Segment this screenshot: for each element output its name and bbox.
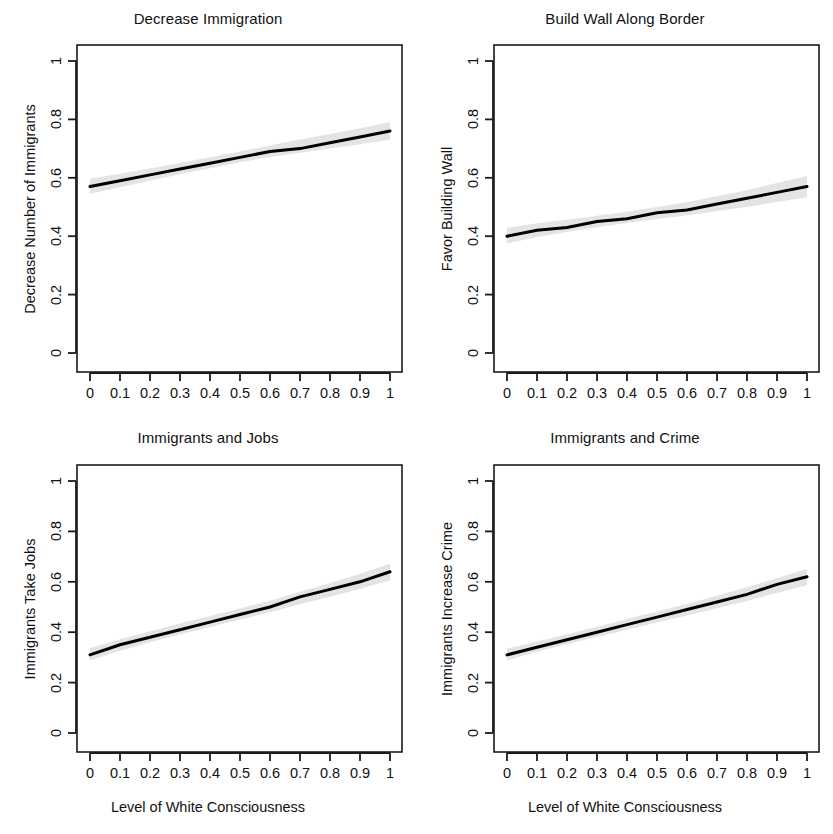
fitted-line	[90, 131, 390, 186]
x-tick-label: 0.5	[647, 385, 667, 401]
y-tick-label: 1	[48, 57, 64, 65]
plot-box	[494, 465, 819, 752]
fitted-line	[507, 187, 807, 237]
y-tick-label: 1	[48, 477, 64, 485]
x-tick-label: 1	[386, 385, 394, 401]
x-tick-label: 0.3	[587, 385, 607, 401]
y-tick-label: 0.6	[48, 168, 64, 188]
x-tick-label: 0.6	[677, 385, 697, 401]
confidence-band	[507, 569, 807, 660]
y-tick-label: 1	[465, 477, 481, 485]
confidence-band	[507, 176, 807, 243]
panel-3: Immigrants and JobsImmigrants Take JobsL…	[0, 417, 416, 834]
x-tick-label: 0.6	[677, 765, 697, 781]
y-tick-label: 0	[465, 729, 481, 737]
x-tick-label: 0.8	[737, 765, 757, 781]
x-tick-label: 0.8	[320, 765, 340, 781]
x-tick-label: 0.9	[767, 765, 787, 781]
x-tick-label: 1	[803, 385, 811, 401]
x-tick-label: 0.6	[260, 385, 280, 401]
panel-4: Immigrants and CrimeImmigrants Increase …	[417, 417, 833, 834]
x-tick-label: 0.9	[350, 765, 370, 781]
x-tick-label: 0.5	[647, 765, 667, 781]
plot-box	[77, 45, 402, 372]
x-tick-label: 0.3	[170, 765, 190, 781]
y-tick-label: 0.2	[465, 673, 481, 693]
panel-1: Decrease ImmigrationDecrease Number of I…	[0, 0, 416, 417]
y-tick-label: 1	[465, 57, 481, 65]
y-tick-label: 0.6	[48, 572, 64, 592]
plot-box	[77, 465, 402, 752]
x-tick-label: 0.1	[527, 385, 547, 401]
y-tick-label: 0.8	[48, 109, 64, 129]
y-tick-label: 0	[465, 349, 481, 357]
x-tick-label: 0.2	[557, 765, 577, 781]
x-tick-label: 0.7	[290, 765, 310, 781]
y-tick-label: 0.4	[48, 622, 64, 642]
x-tick-label: 0	[86, 765, 94, 781]
y-tick-label: 0.8	[465, 109, 481, 129]
y-tick-label: 0.6	[465, 168, 481, 188]
x-tick-label: 0.4	[617, 765, 637, 781]
x-tick-label: 1	[386, 765, 394, 781]
x-tick-label: 0.1	[110, 385, 130, 401]
x-tick-label: 0.7	[707, 765, 727, 781]
x-tick-label: 0	[503, 765, 511, 781]
x-tick-label: 0	[503, 385, 511, 401]
panel-2: Build Wall Along BorderFavor Building Wa…	[417, 0, 833, 417]
x-tick-label: 0.4	[200, 385, 220, 401]
x-tick-label: 0.5	[230, 385, 250, 401]
x-tick-label: 0.9	[350, 385, 370, 401]
x-tick-label: 0.3	[170, 385, 190, 401]
x-tick-label: 0.1	[110, 765, 130, 781]
x-tick-label: 0.3	[587, 765, 607, 781]
y-tick-label: 0.2	[48, 285, 64, 305]
x-tick-label: 0.2	[140, 765, 160, 781]
x-tick-label: 0.6	[260, 765, 280, 781]
x-tick-label: 0.7	[290, 385, 310, 401]
x-tick-label: 0.7	[707, 385, 727, 401]
figure-four-panel-plot: Decrease ImmigrationDecrease Number of I…	[0, 0, 833, 834]
fitted-line	[90, 572, 390, 655]
y-tick-label: 0.6	[465, 572, 481, 592]
x-tick-label: 0.5	[230, 765, 250, 781]
x-tick-label: 0.4	[200, 765, 220, 781]
y-tick-label: 0	[48, 349, 64, 357]
x-tick-label: 0.2	[557, 385, 577, 401]
x-tick-label: 1	[803, 765, 811, 781]
x-tick-label: 0.9	[767, 385, 787, 401]
y-tick-label: 0	[48, 729, 64, 737]
x-tick-label: 0.8	[320, 385, 340, 401]
y-tick-label: 0.4	[48, 226, 64, 246]
x-tick-label: 0.4	[617, 385, 637, 401]
y-tick-label: 0.8	[48, 521, 64, 541]
x-tick-label: 0.8	[737, 385, 757, 401]
y-tick-label: 0.2	[48, 673, 64, 693]
x-tick-label: 0.1	[527, 765, 547, 781]
fitted-line	[507, 577, 807, 655]
y-tick-label: 0.2	[465, 285, 481, 305]
y-tick-label: 0.8	[465, 521, 481, 541]
x-tick-label: 0.2	[140, 385, 160, 401]
y-tick-label: 0.4	[465, 622, 481, 642]
x-tick-label: 0	[86, 385, 94, 401]
confidence-band	[90, 564, 390, 661]
y-tick-label: 0.4	[465, 226, 481, 246]
